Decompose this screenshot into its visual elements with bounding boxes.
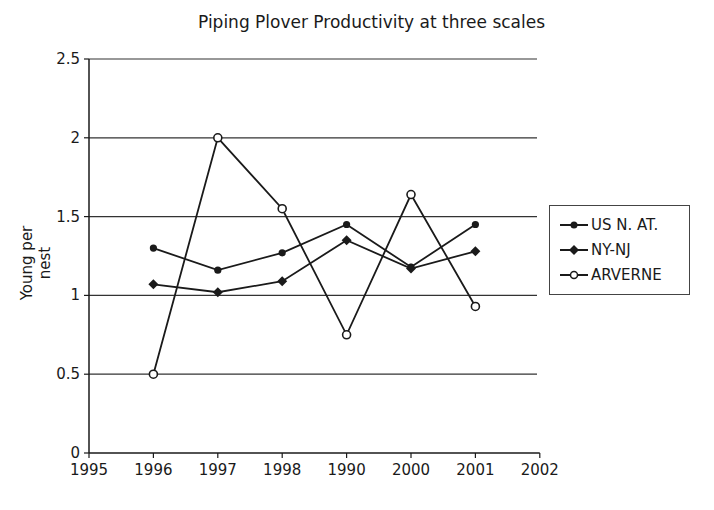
data-series — [148, 134, 480, 378]
y-tick-label: 2 — [70, 129, 80, 147]
open-circle-marker-icon — [560, 270, 588, 280]
x-tick-label: 1995 — [70, 461, 108, 479]
legend-label: ARVERNE — [591, 266, 662, 284]
y-tick-label: 2.5 — [56, 50, 80, 68]
y-tick-label: 1 — [70, 286, 80, 304]
y-tick-label: 1.5 — [56, 208, 80, 226]
legend-item-us-n-at: US N. AT. — [560, 214, 658, 236]
y-tick-label: 0.5 — [56, 365, 80, 383]
x-tick-label: 1998 — [263, 461, 301, 479]
legend: US N. AT. NY-NJ ARVERNE — [549, 205, 690, 295]
x-tick-label: 2002 — [521, 461, 559, 479]
gridlines — [89, 59, 537, 374]
legend-label: NY-NJ — [591, 241, 631, 259]
series-arverne — [149, 134, 479, 378]
filled-circle-marker-icon — [560, 220, 588, 230]
legend-item-ny-nj: NY-NJ — [560, 239, 631, 261]
y-tick-label: 0 — [70, 444, 80, 462]
series-us-n-at- — [150, 221, 479, 274]
series-ny-nj — [148, 235, 480, 297]
x-tick-label: 2001 — [456, 461, 494, 479]
filled-diamond-marker-icon — [560, 245, 588, 255]
legend-label: US N. AT. — [591, 216, 658, 234]
x-tick-label: 1997 — [199, 461, 237, 479]
legend-item-arverne: ARVERNE — [560, 264, 662, 286]
x-tick-label: 2000 — [392, 461, 430, 479]
x-tick-label: 1990 — [328, 461, 366, 479]
x-tick-label: 1996 — [134, 461, 172, 479]
